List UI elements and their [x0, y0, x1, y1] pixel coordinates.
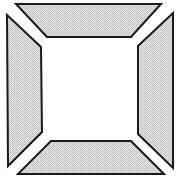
- bottom-panel: [18, 141, 164, 174]
- diagram-canvas: Square frame composed of four shaded tra…: [0, 0, 183, 181]
- beveled-square-frame: [0, 0, 183, 181]
- left-panel: [7, 15, 42, 166]
- right-panel: [138, 13, 173, 168]
- top-panel: [16, 4, 161, 37]
